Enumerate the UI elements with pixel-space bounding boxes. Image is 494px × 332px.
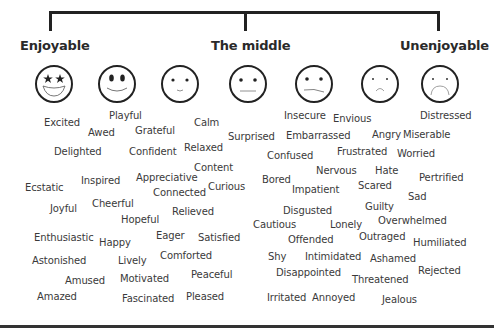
emotion-word: Sad	[408, 191, 427, 202]
emotion-word: Playful	[109, 110, 142, 121]
bracket-left-tick	[49, 11, 52, 31]
emotion-word: Delighted	[54, 146, 102, 157]
emotion-word: Appreciative	[136, 172, 198, 183]
emotion-word: Embarrassed	[286, 130, 351, 141]
small-frown-face-icon	[360, 64, 400, 104]
emotion-word: Outraged	[359, 231, 405, 242]
emotion-word: Comforted	[160, 250, 212, 261]
bottom-rule	[0, 325, 494, 328]
emotion-word: Motivated	[120, 273, 169, 284]
slight-frown-face-icon	[294, 64, 334, 104]
emotion-word: Curious	[208, 181, 245, 192]
emotion-word: Humiliated	[413, 237, 466, 248]
slight-smile-face-icon	[160, 64, 200, 104]
emotion-word: Fascinated	[122, 293, 174, 304]
emotion-word: Scared	[358, 180, 392, 191]
emotion-word: Amazed	[37, 291, 77, 302]
bracket-middle-tick	[244, 11, 247, 31]
emotion-word: Disgusted	[283, 205, 332, 216]
emotion-word: Relieved	[172, 206, 214, 217]
heading-the-middle: The middle	[211, 38, 290, 53]
emotion-word: Ashamed	[370, 253, 416, 264]
emotion-word: Annoyed	[312, 292, 355, 303]
emotion-word: Threatened	[352, 274, 409, 285]
emotion-word: Content	[194, 162, 233, 173]
emotion-word: Overwhelmed	[378, 215, 447, 226]
emotion-word: Confused	[267, 150, 313, 161]
emotion-word: Eager	[156, 230, 185, 241]
emotion-word: Hopeful	[121, 214, 159, 225]
emotion-word: Bored	[262, 174, 291, 185]
bracket-right-tick	[437, 11, 440, 31]
heading-unenjoyable: Unenjoyable	[400, 38, 489, 53]
emotion-word: Disappointed	[276, 267, 341, 278]
emotion-word: Miserable	[403, 129, 450, 140]
emotion-word: Frustrated	[337, 146, 387, 157]
emotion-word: Excited	[44, 117, 80, 128]
emotion-word: Shy	[268, 251, 286, 262]
emotion-word: Nervous	[316, 165, 357, 176]
emotion-word: Pertrified	[419, 172, 464, 183]
emotion-word: Irritated	[267, 292, 306, 303]
emotion-word: Enthusiastic	[34, 232, 94, 243]
emotion-word: Lively	[118, 255, 147, 266]
emotion-word: Inspired	[81, 175, 120, 186]
emotion-word: Cheerful	[92, 198, 134, 209]
big-frown-face-icon	[420, 64, 460, 104]
emotion-word: Hate	[375, 165, 398, 176]
emotion-word: Peaceful	[191, 269, 232, 280]
emotion-word: Awed	[88, 127, 115, 138]
emotion-word: Rejected	[418, 265, 461, 276]
emotion-word: Distressed	[420, 110, 472, 121]
emotion-word: Grateful	[135, 125, 175, 136]
emotion-word: Pleased	[186, 291, 224, 302]
emotion-word: Confident	[129, 146, 177, 157]
emotion-word: Amused	[65, 275, 105, 286]
emotion-word: Surprised	[228, 131, 275, 142]
emotion-word: Angry	[372, 129, 401, 140]
emotion-word: Joyful	[50, 203, 77, 214]
emotion-word: Guilty	[365, 201, 394, 212]
emotion-word: Connected	[153, 187, 206, 198]
emotion-word: Astonished	[32, 255, 86, 266]
heading-enjoyable: Enjoyable	[20, 38, 90, 53]
emotion-word: Satisfied	[198, 232, 240, 243]
emotion-word: Happy	[99, 237, 131, 248]
emotion-word: Impatient	[292, 184, 339, 195]
emotion-word: Cautious	[253, 219, 296, 230]
emotion-word: Calm	[194, 117, 219, 128]
emotion-word: Relaxed	[184, 142, 223, 153]
emotion-word: Worried	[397, 148, 435, 159]
emotion-word: Lonely	[330, 219, 362, 230]
emotion-word: Intimidated	[305, 251, 361, 262]
emotion-word: Insecure	[284, 110, 326, 121]
emotion-word: Ecstatic	[25, 182, 63, 193]
big-smile-face-icon	[97, 64, 137, 104]
neutral-face-icon	[228, 64, 268, 104]
emotion-word: Jealous	[382, 294, 417, 305]
emotion-word: Envious	[333, 113, 371, 124]
emotion-word: Offended	[288, 234, 333, 245]
star-eyes-big-grin-face-icon	[34, 64, 74, 104]
